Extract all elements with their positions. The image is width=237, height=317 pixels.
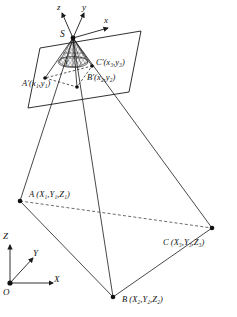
projection-ray-C xyxy=(73,38,212,228)
image-plane-parallelogram xyxy=(28,31,141,108)
ground-edge-AC-dashed xyxy=(20,201,212,228)
image-point-B-prime-coords: (x₂,y₂) xyxy=(94,72,115,82)
ground-point-A-coords: (X₁,Y₁,Z₁) xyxy=(36,189,69,199)
image-point-A-prime-label: A′(x₁,y₁) xyxy=(22,79,50,88)
ground-point-B-label: B (X₂,Y₂,Z₂) xyxy=(122,295,163,304)
point-marker-Bprime xyxy=(75,85,79,89)
diagram-canvas xyxy=(0,0,237,317)
ground-point-C-label: C (X₃,Y₃,Z₃) xyxy=(163,238,204,247)
image-point-C-prime-coords: (x₃,y₃) xyxy=(104,57,125,67)
object-axis-Y xyxy=(10,258,33,283)
object-axis-X-label: X xyxy=(54,275,60,284)
image-axis-x-label: x xyxy=(104,16,108,25)
object-origin-marker xyxy=(7,280,12,285)
image-point-C-prime-name: C′ xyxy=(96,57,104,67)
image-point-C-prime-label: C′(x₃,y₃) xyxy=(96,58,125,67)
ground-point-A-name: A xyxy=(29,189,34,199)
object-origin-label: O xyxy=(3,288,10,297)
image-point-B-prime-name: B′ xyxy=(87,72,94,82)
field-angle-label: γ xyxy=(65,58,68,66)
object-axis-Y-label: Y xyxy=(33,249,38,258)
image-point-B-prime-label: B′(x₂,y₂) xyxy=(87,73,115,82)
ground-point-A-label: A (X₁,Y₁,Z₁) xyxy=(29,190,70,199)
ground-point-B-coords: (X₂,Y₂,Z₂) xyxy=(129,294,162,304)
image-point-A-prime-name: A′ xyxy=(22,78,29,88)
point-marker-Cprime xyxy=(90,64,94,68)
image-axis-x xyxy=(73,28,108,38)
point-marker-C xyxy=(210,226,215,231)
point-marker-A xyxy=(18,199,23,204)
ground-point-C-name: C xyxy=(163,237,169,247)
ground-point-B-name: B xyxy=(122,294,127,304)
projection-diagram: z y x S γ A′(x₁,y₁) B′(x₂,y₂) C′(x₃,y₃) … xyxy=(0,0,237,317)
object-axis-Z-label: Z xyxy=(3,232,8,241)
image-axis-y-label: y xyxy=(82,3,86,12)
image-triangle-dashed xyxy=(45,66,92,87)
perspective-center-label: S xyxy=(60,30,65,40)
image-point-A-prime-coords: (x₁,y₁) xyxy=(29,78,50,88)
image-axis-z-label: z xyxy=(57,3,61,12)
image-axis-y xyxy=(73,13,84,38)
ground-point-C-coords: (X₃,Y₃,Z₃) xyxy=(171,237,204,247)
point-marker-S xyxy=(71,36,76,41)
point-marker-B xyxy=(111,295,116,300)
